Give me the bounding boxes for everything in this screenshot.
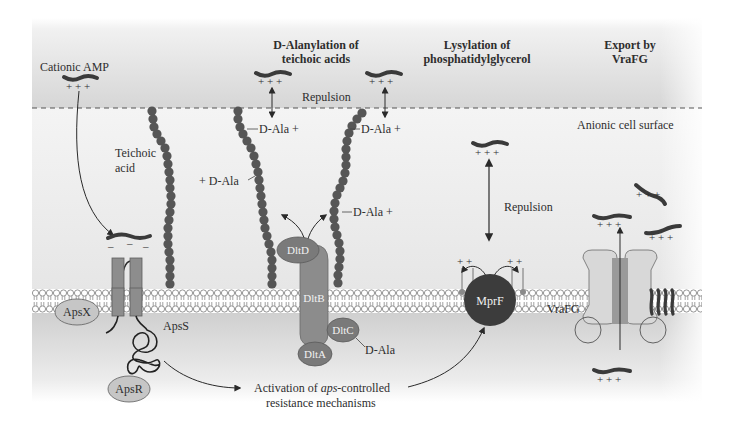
vrafg-label: VraFG — [547, 302, 580, 316]
svg-text:ApsR: ApsR — [115, 382, 142, 396]
header-dalanylation-1: D-Alanylation of — [273, 38, 360, 52]
anionic-surface-label: Anionic cell surface — [577, 118, 674, 132]
dala-label-3: + D-Ala — [199, 174, 239, 188]
dala-label-1: D-Ala + — [259, 122, 299, 136]
dala-free-label: D-Ala — [365, 343, 396, 357]
teichoic-label-1: Teichoic — [115, 146, 156, 160]
peptide-cytoplasmic — [594, 370, 630, 373]
header-dalanylation-2: teichoic acids — [282, 52, 351, 66]
cytoplasmic-peptide-charges: + + + — [597, 373, 621, 385]
apsR-protein: ApsR — [108, 376, 150, 402]
cationic-amp-label: Cationic AMP — [40, 60, 109, 74]
minus-charge-1: – — [107, 240, 114, 252]
dala-label-2: D-Ala + — [361, 122, 401, 136]
diagram-canvas: D-Alanylation of teichoic acids Lysylati… — [0, 0, 731, 435]
exported-charges-3: + + + — [649, 231, 673, 243]
svg-text:+ +: + + — [507, 255, 522, 267]
svg-text:ApsX: ApsX — [63, 305, 91, 319]
svg-text:DltC: DltC — [332, 324, 353, 336]
svg-text:DltD: DltD — [287, 244, 309, 256]
svg-text:DltB: DltB — [303, 292, 324, 304]
mprf-peptide-charges: + + + — [475, 146, 499, 158]
amp-charges: + + + — [66, 80, 90, 92]
minus-charge-3: – — [142, 240, 149, 252]
svg-text:DltA: DltA — [304, 348, 326, 360]
activation-line1: Activation of aps-controlled — [254, 381, 390, 395]
apsX-protein: ApsX — [55, 299, 99, 325]
svg-text:MprF: MprF — [476, 294, 504, 308]
extracellular-zone — [32, 18, 702, 108]
activation-line2: resistance mechanisms — [266, 396, 376, 410]
teichoic-label-2: acid — [115, 161, 135, 175]
dltD-protein: DltD — [277, 237, 319, 263]
exported-charges-2: + + + — [636, 188, 660, 200]
svg-text:+ +: + + — [457, 255, 472, 267]
apss-label: ApsS — [163, 319, 189, 333]
header-lysylation-1: Lysylation of — [444, 38, 511, 52]
header-lysylation-2: phosphatidylglycerol — [423, 52, 531, 66]
repulsion-mprf-label: Repulsion — [504, 200, 553, 214]
minus-charge-2: – — [126, 237, 133, 249]
header-export-2: VraFG — [612, 52, 648, 66]
header-export-1: Export by — [604, 38, 656, 52]
mprF-protein: MprF — [464, 274, 516, 326]
diagram-svg: D-Alanylation of teichoic acids Lysylati… — [0, 0, 731, 435]
repulsion-top-label: Repulsion — [302, 90, 351, 104]
dltC-protein: DltC — [327, 318, 359, 342]
dltA-protein: DltA — [298, 342, 332, 366]
svg-text:+ + +: + + + — [258, 75, 282, 87]
svg-text:+ + +: + + + — [369, 75, 393, 87]
dala-label-4: D-Ala + — [353, 205, 393, 219]
exported-charges-1: + + + — [597, 218, 621, 230]
